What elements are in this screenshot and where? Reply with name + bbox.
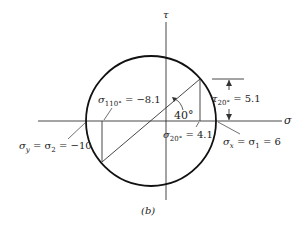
sigma-y-label: σy = σ2 = −10 <box>19 140 92 154</box>
sigma-y-leader <box>68 122 86 139</box>
mohr-circle-diagram: σ τ 40° τ20° = 5.1 σ110° = −8.1 σ20° = 4… <box>0 0 300 231</box>
sigma110-label: σ110° = −8.1 <box>98 94 161 108</box>
sigma-axis-label: σ <box>284 114 292 127</box>
tau-axis-label: τ <box>163 9 169 20</box>
sigma20-leader <box>196 122 199 127</box>
sigma-x-leader <box>218 122 240 134</box>
tau20-label: τ20° = 5.1 <box>212 93 261 107</box>
sigma110-leader <box>104 108 112 120</box>
tau20-arrow-down-icon <box>226 114 232 120</box>
figure-caption: (b) <box>141 205 155 216</box>
angle-label: 40° <box>174 109 194 122</box>
sigma-x-label: σx = σ1 = 6 <box>223 136 281 150</box>
sigma20-label: σ20° = 4.1 <box>163 129 213 143</box>
tau20-arrow-up-icon <box>226 80 232 86</box>
